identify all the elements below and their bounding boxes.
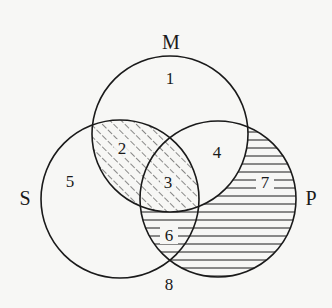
set-label-s: S xyxy=(19,187,30,209)
venn-diagram: M S P 1 2 3 4 5 6 7 8 xyxy=(0,0,332,308)
region-label-6: 6 xyxy=(165,226,174,245)
region-label-3: 3 xyxy=(164,173,173,192)
region-label-5: 5 xyxy=(66,172,75,191)
region-label-2: 2 xyxy=(118,139,127,158)
region-label-7: 7 xyxy=(261,173,270,192)
set-label-m: M xyxy=(162,31,180,53)
venn-svg: M S P 1 2 3 4 5 6 7 8 xyxy=(0,0,332,308)
region-label-4: 4 xyxy=(213,143,222,162)
set-label-p: P xyxy=(305,187,316,209)
region-label-8: 8 xyxy=(165,275,174,294)
region-label-1: 1 xyxy=(166,69,175,88)
